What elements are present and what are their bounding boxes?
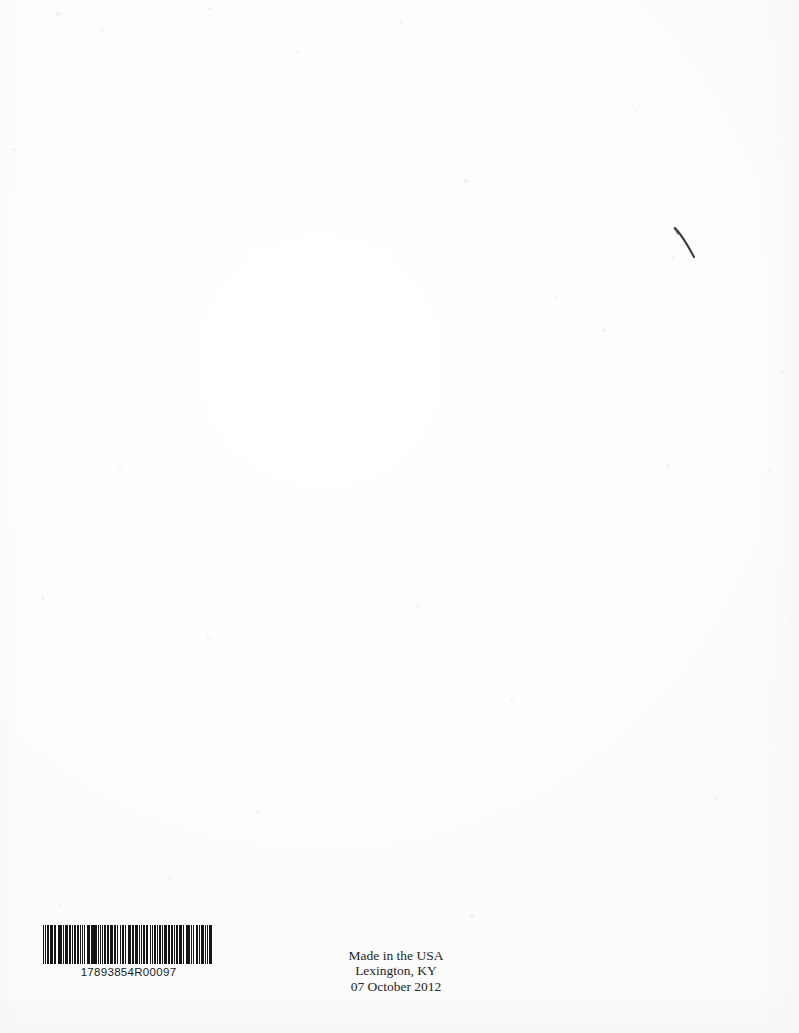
barcode-bar [139,925,140,964]
barcode-bar [100,925,101,964]
scan-speckle-overlay [0,0,799,1033]
barcode-bar [210,925,211,964]
imprint-line-country: Made in the USA [316,948,476,963]
barcode-bar [117,925,118,964]
barcode-bar [51,925,52,964]
barcode-bar [82,925,83,964]
page-edge-shadow-right [765,0,799,1033]
barcode-bar [157,925,158,964]
barcode-bar [143,925,145,964]
barcode-bar [177,925,178,964]
barcode-bar [159,925,161,964]
page-edge-shadow-left [0,0,16,1033]
barcode-bar [174,925,175,964]
barcode-bar [96,925,97,964]
imprint-line-date: 07 October 2012 [316,979,476,994]
barcode-bar [120,925,121,964]
barcode-bar [114,925,115,964]
barcode-bar [202,925,204,964]
barcode-bar [60,925,62,964]
barcode-bar [133,925,134,964]
barcode-bar [93,925,95,964]
barcode-bar [150,925,151,964]
barcode-bar [164,925,165,964]
barcode-bar [188,925,189,964]
barcode-bar [129,925,131,964]
barcode-bar [55,925,56,964]
barcode-bar [137,925,138,964]
barcode-bar [47,925,49,964]
barcode-bar [45,925,46,964]
barcode-bar [183,925,184,964]
barcode-bar [107,925,109,964]
barcode-bar [154,925,155,964]
page-edge-shadow-bottom [0,993,799,1033]
barcode-bar [102,925,103,964]
barcode-number: 17893854R00097 [43,965,214,979]
barcode-bar [84,925,85,964]
pen-stroke-mark [672,226,702,260]
barcode-bar [205,925,206,964]
barcode-bar [58,925,59,964]
barcode-bar [207,925,208,964]
paper-tone-overlay [0,0,799,1033]
barcode-bar [70,925,71,964]
barcode-bar [193,925,194,964]
barcode-bar [171,925,173,964]
barcode-bar [74,925,76,964]
barcode-bar [125,925,126,964]
made-in-usa-imprint: Made in the USA Lexington, KY 07 October… [316,948,476,994]
barcode: 17893854R00097 [43,925,214,979]
barcode-bar [199,925,200,964]
barcode-bar [63,925,64,964]
barcode-bar [88,925,89,964]
barcode-bar [147,925,148,964]
scanned-page: 17893854R00097 Made in the USA Lexington… [0,0,799,1033]
barcode-bars [43,925,214,964]
imprint-line-city: Lexington, KY [316,963,476,978]
barcode-bar [165,925,166,964]
